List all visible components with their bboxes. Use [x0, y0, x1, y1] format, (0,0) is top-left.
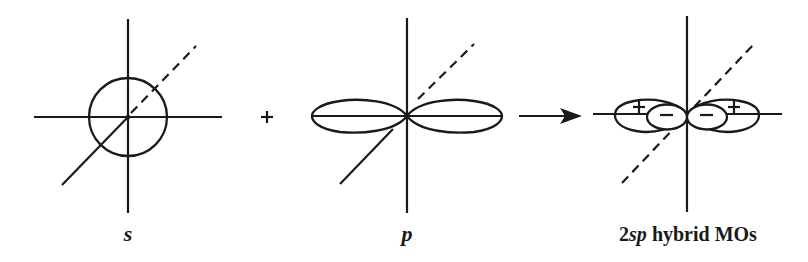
p-depth-axis-back: [418, 44, 474, 99]
plus-sign-right-lobe: [728, 101, 740, 113]
hybrid-label: 2sp hybrid MOs: [619, 223, 757, 246]
s-depth-axis-front: [62, 117, 128, 185]
s-orbital-panel: s: [34, 19, 222, 246]
hybrid-label-sp: sp: [628, 223, 647, 246]
arrow-operator: [519, 108, 582, 124]
p-depth-axis-front: [340, 129, 393, 184]
s-orbital-label: s: [123, 221, 133, 246]
sp-hybrid-panel: 2sp hybrid MOs: [593, 16, 782, 246]
p-orbital-panel: p: [311, 18, 502, 246]
hybrid-label-number: 2: [619, 223, 629, 245]
p-orbital-label: p: [400, 221, 413, 246]
sp-hybridization-diagram: s p: [0, 0, 808, 262]
hybrid-left-small-lobe: [647, 105, 687, 130]
hybrid-label-rest: hybrid MOs: [647, 223, 757, 246]
plus-operator: [261, 111, 273, 123]
s-origin-dot: [126, 115, 130, 119]
plus-sign-left-lobe: [633, 101, 645, 113]
hybrid-right-small-lobe: [687, 105, 727, 130]
